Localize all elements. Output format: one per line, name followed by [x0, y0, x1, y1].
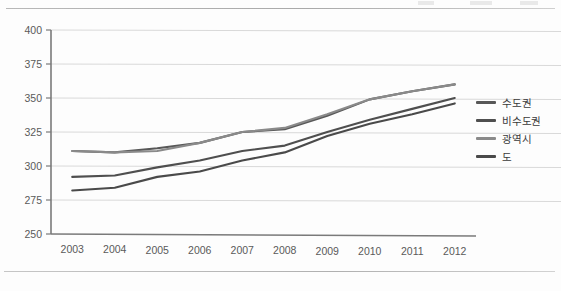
gridline	[51, 64, 561, 66]
x-axis-label: 2012	[443, 245, 467, 257]
legend-item-label: 수도권	[502, 95, 531, 110]
x-axis-label: 2006	[188, 244, 212, 256]
y-axis-label: 250	[24, 228, 42, 240]
scan-artifact	[470, 1, 492, 5]
y-axis-label: 325	[24, 126, 42, 138]
y-axis-label: 350	[24, 92, 42, 104]
legend-item[interactable]: 수도권	[476, 94, 560, 111]
x-axis-line	[51, 234, 476, 236]
legend-line-icon	[476, 155, 496, 158]
series-line	[72, 98, 455, 177]
legend-line-icon	[476, 119, 496, 122]
y-axis-label: 300	[24, 160, 42, 172]
legend-item[interactable]: 도	[476, 148, 560, 165]
x-axis-label: 2004	[103, 243, 127, 255]
x-axis-label: 2008	[273, 244, 297, 256]
gridline	[51, 166, 561, 168]
page-rule-bottom	[4, 271, 555, 272]
legend-item-label: 비수도권	[502, 113, 541, 128]
chart-legend: 수도권비수도권광역시도	[476, 94, 560, 166]
x-axis-label: 2009	[316, 245, 340, 257]
y-axis-label: 275	[24, 194, 42, 206]
scan-artifact	[520, 1, 538, 5]
legend-item-label: 도	[502, 149, 512, 164]
y-axis-label: 400	[24, 24, 42, 36]
legend-item[interactable]: 비수도권	[476, 112, 560, 129]
gridline	[51, 30, 561, 32]
x-axis-label: 2011	[401, 245, 424, 257]
chart-page: 250275300325350375400 200320042005200620…	[0, 0, 561, 291]
y-axis-label: 375	[24, 58, 42, 70]
series-lines	[72, 84, 455, 190]
x-axis-label: 2005	[146, 244, 170, 256]
series-line	[72, 103, 455, 190]
legend-line-icon	[476, 137, 496, 140]
page-rule-top	[6, 8, 555, 9]
y-axis-labels: 250275300325350375400	[24, 24, 42, 240]
gridline	[51, 200, 561, 202]
legend-line-icon	[476, 101, 496, 104]
legend-item-label: 광역시	[502, 131, 531, 146]
x-axis-label: 2003	[61, 243, 85, 255]
x-axis-labels: 2003200420052006200720082009201020112012	[61, 243, 467, 257]
x-axis-label: 2007	[231, 244, 255, 256]
legend-item[interactable]: 광역시	[476, 130, 560, 147]
x-axis-label: 2010	[358, 245, 382, 257]
scan-artifact	[418, 1, 434, 5]
